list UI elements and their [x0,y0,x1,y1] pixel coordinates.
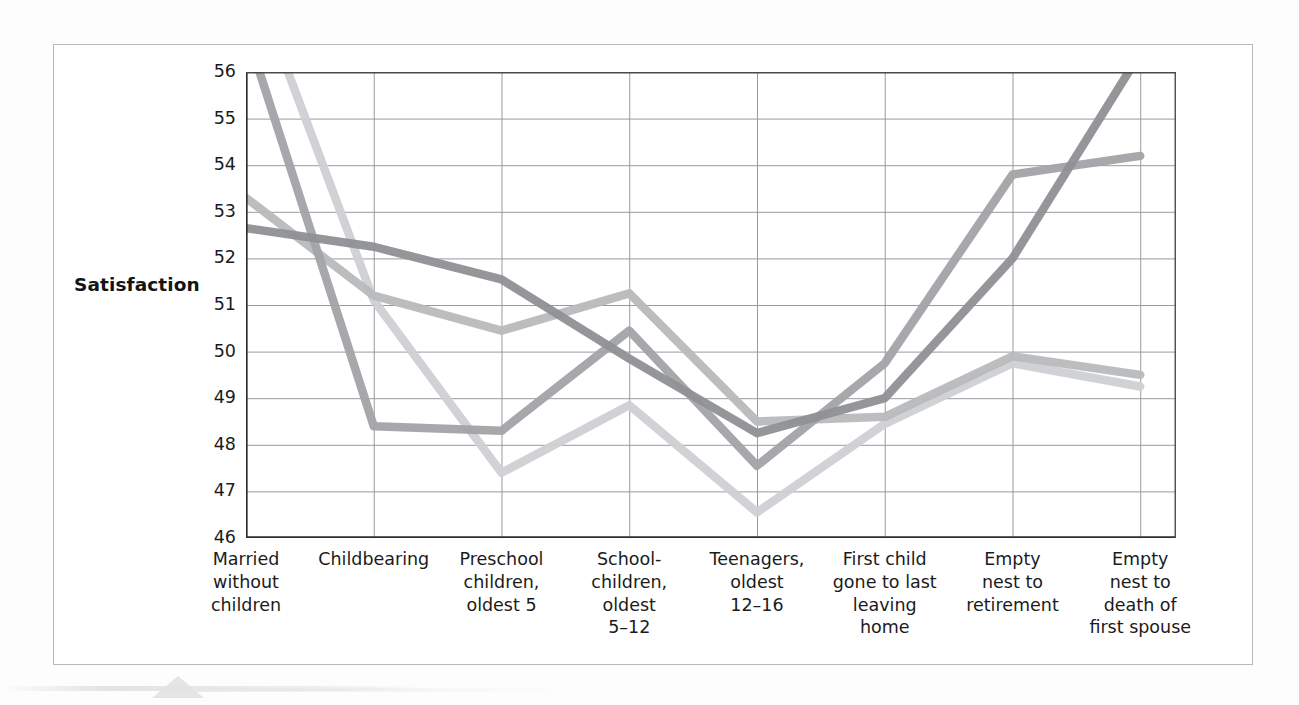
scan-artifact-arrow [152,676,204,698]
x-category-label-8: Empty nest to death of first spouse [1072,548,1208,639]
y-tick-52: 52 [202,249,236,267]
y-tick-54: 54 [202,156,236,174]
y-tick-50: 50 [202,343,236,361]
y-tick-53: 53 [202,203,236,221]
y-tick-51: 51 [202,296,236,314]
x-category-label-6: First child gone to last leaving home [815,548,955,639]
line-chart-svg [246,72,1176,538]
x-category-label-1: Married without children [187,548,305,616]
y-tick-46: 46 [202,529,236,547]
y-tick-48: 48 [202,436,236,454]
plot-area [246,72,1176,538]
x-category-label-3: Preschool children, oldest 5 [435,548,567,616]
scan-artifact-right [190,688,570,692]
y-tick-56: 56 [202,63,236,81]
y-tick-55: 55 [202,110,236,128]
y-tick-47: 47 [202,482,236,500]
y-axis-title: Satisfaction [74,274,214,295]
x-category-label-5: Teenagers, oldest 12–16 [692,548,822,616]
x-category-label-2: Childbearing [299,548,449,571]
x-category-label-4: School- children, oldest 5–12 [570,548,688,639]
y-tick-49: 49 [202,389,236,407]
x-axis-category-labels: Married without childrenChildbearingPres… [246,548,1176,653]
x-category-label-7: Empty nest to retirement [951,548,1073,616]
